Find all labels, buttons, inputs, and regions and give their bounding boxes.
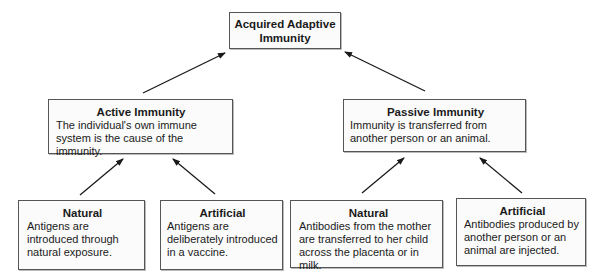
passive-natural-title: Natural: [299, 206, 438, 220]
active-immunity-description: The individual's own immune system is th…: [56, 119, 226, 158]
arrow-passive-artificial-to-passive: [480, 158, 522, 193]
active-natural-node: Natural Antigens are introduced through …: [18, 200, 145, 270]
active-artificial-title: Artificial: [167, 206, 278, 220]
active-immunity-title: Active Immunity: [56, 105, 226, 119]
arrow-passive-natural-to-passive: [362, 158, 404, 193]
active-natural-description: Antigens are introduced through natural …: [27, 220, 138, 259]
passive-natural-description: Antibodies from the mother are transferr…: [299, 220, 438, 272]
passive-immunity-title: Passive Immunity: [350, 105, 521, 119]
passive-artificial-node: Artificial Antibodies produced by anothe…: [456, 198, 586, 266]
passive-artificial-description: Antibodies produced by another person or…: [464, 218, 581, 257]
arrow-active-natural-to-active: [80, 159, 123, 195]
active-immunity-node: Active Immunity The individual's own imm…: [48, 99, 233, 154]
root-title: Acquired Adaptive Immunity: [230, 17, 340, 45]
arrow-active-artificial-to-active: [173, 159, 215, 194]
active-natural-title: Natural: [27, 206, 138, 220]
arrow-passive-to-root: [345, 52, 425, 91]
arrow-active-to-root: [143, 53, 225, 93]
passive-immunity-description: Immunity is transferred from another per…: [350, 119, 521, 145]
passive-immunity-node: Passive Immunity Immunity is transferred…: [343, 99, 526, 152]
root-node: Acquired Adaptive Immunity: [229, 12, 341, 49]
active-artificial-description: Antigens are deliberately introduced in …: [167, 220, 278, 259]
active-artificial-node: Artificial Antigens are deliberately int…: [160, 200, 283, 270]
passive-artificial-title: Artificial: [464, 204, 581, 218]
passive-natural-node: Natural Antibodies from the mother are t…: [290, 200, 443, 268]
